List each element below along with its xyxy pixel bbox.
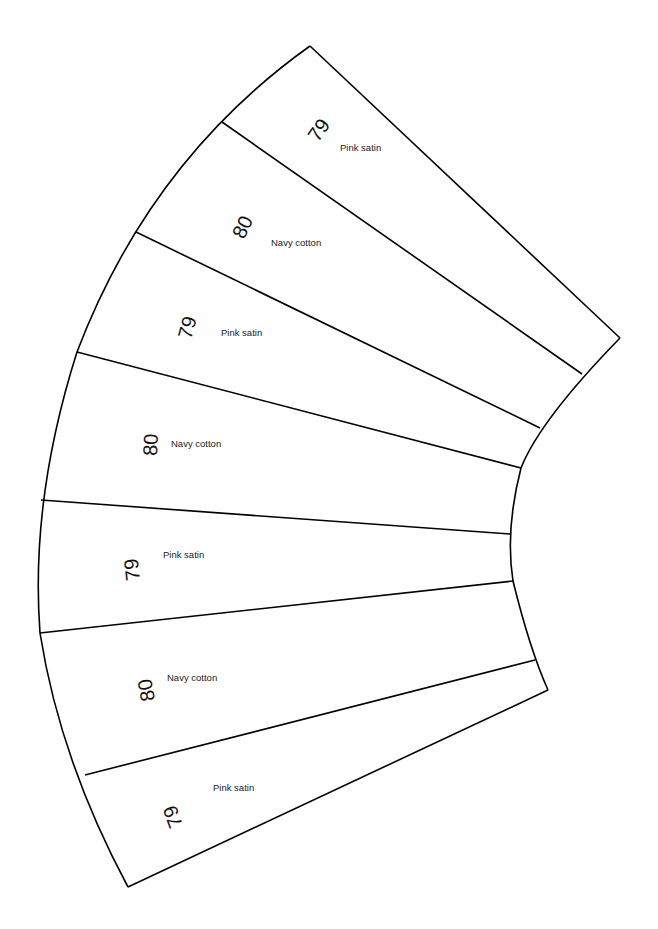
segment-number: 80 [139,433,162,456]
segment-fabric-label: Navy cotton [167,672,217,683]
segment-fabric-label: Pink satin [221,327,262,338]
segment-number: 80 [228,212,257,241]
bottom-edge [128,690,548,887]
divider-5 [40,581,513,633]
segment-fabric-label: Pink satin [163,549,204,560]
divider-6 [85,660,535,775]
segment-2: 80 Navy cotton [228,212,321,248]
divider-1 [222,122,582,374]
inner-arc [510,338,620,690]
segment-fabric-label: Navy cotton [171,438,221,449]
segment-number: 79 [303,114,334,145]
segment-fabric-label: Pink satin [340,142,381,153]
top-edge [310,46,620,338]
segment-5: 79 Pink satin [120,549,204,582]
segment-number: 79 [158,803,186,831]
segment-fabric-label: Navy cotton [271,237,321,248]
outer-arc [38,46,310,887]
segment-3: 79 Pink satin [174,314,263,341]
segment-1: 79 Pink satin [303,114,381,153]
segment-number: 80 [133,677,159,703]
divider-4 [41,500,510,534]
fan-pattern-diagram: 79 Pink satin 80 Navy cotton 79 Pink sat… [0,0,658,929]
segment-7: 79 Pink satin [158,782,254,831]
segment-4: 80 Navy cotton [139,433,221,456]
segment-number: 79 [120,557,144,581]
segment-6: 80 Navy cotton [133,672,217,703]
segment-fabric-label: Pink satin [213,782,254,793]
segment-number: 79 [174,314,201,341]
